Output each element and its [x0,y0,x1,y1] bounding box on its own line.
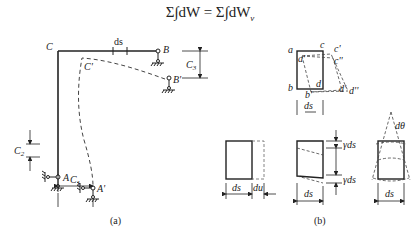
label-dtheta: dθ [395,120,405,131]
label-C-prime: C' [84,61,94,72]
figure-a: ds C C' B B' [14,36,208,227]
label-ds-bend: ds [385,188,394,199]
label-d-dprime: d'' [349,85,359,96]
label-a: a [288,44,293,55]
label-ds-axial: ds [232,182,241,193]
label-gamma-ds-bottom: γds [343,174,356,185]
label-du: du [253,182,263,193]
dimension-C2 [26,130,40,171]
original-frame [58,51,158,177]
label-d: d [316,78,322,89]
label-C3: C3 [186,59,197,72]
deflected-frame [79,58,166,186]
label-c: c [320,39,325,50]
label-b-prime: b' [305,89,313,100]
label-C: C [46,41,53,52]
label-d-prime: d' [339,83,347,94]
label-ds: ds [114,36,123,47]
label-b: b [288,82,293,93]
structural-diagram: ds C C' B B' [0,0,420,239]
support-A [42,171,64,191]
label-a-prime: a' [298,53,306,64]
label-ds-top: ds [304,100,313,111]
label-c-prime: c' [334,43,341,54]
figure-b: a a' b b' c c' c'' d d' d'' ds ds [226,39,410,227]
label-A-prime: A' [96,183,106,194]
label-C2: C2 [14,145,25,158]
label-c-dprime: c'' [334,55,344,66]
support-A-prime [77,182,99,202]
label-ds-shear: ds [304,188,313,199]
label-C1: C1 [70,174,80,187]
label-A: A [62,172,70,183]
caption-a: (a) [110,215,121,227]
caption-b: (b) [314,215,326,227]
label-B-prime: B' [173,74,182,85]
label-B: B [163,44,169,55]
label-gamma-ds-top: γds [343,139,356,150]
